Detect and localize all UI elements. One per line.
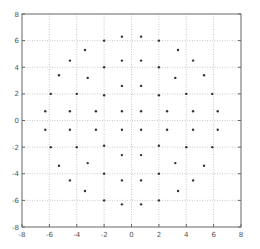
data-point xyxy=(50,146,52,148)
data-point xyxy=(158,145,160,147)
data-point xyxy=(174,77,176,79)
data-point xyxy=(69,59,71,61)
data-point xyxy=(174,162,176,164)
grid-lines xyxy=(22,14,241,227)
x-tick-label: 4 xyxy=(184,231,189,239)
data-point xyxy=(69,129,71,131)
data-point xyxy=(69,110,71,112)
data-point xyxy=(140,110,142,112)
x-tick-label: 8 xyxy=(239,231,243,239)
data-point xyxy=(185,93,187,95)
data-point xyxy=(140,35,142,37)
data-point xyxy=(140,85,142,87)
x-tick-label: 0 xyxy=(129,231,133,239)
data-point xyxy=(177,190,179,192)
x-tick-label: -4 xyxy=(73,231,81,239)
data-point xyxy=(121,179,123,181)
data-point xyxy=(95,110,97,112)
y-tick-label: -6 xyxy=(12,197,20,205)
data-point xyxy=(158,39,160,41)
data-point xyxy=(217,129,219,131)
data-point xyxy=(177,49,179,51)
data-point xyxy=(103,173,105,175)
x-axis-ticks: -8-6-4-202468 xyxy=(19,224,244,239)
data-point xyxy=(158,173,160,175)
x-tick-label: -8 xyxy=(19,231,26,239)
data-point xyxy=(76,146,78,148)
data-point xyxy=(121,85,123,87)
data-point xyxy=(140,179,142,181)
y-tick-label: 4 xyxy=(15,64,20,72)
data-point xyxy=(192,110,194,112)
data-point xyxy=(58,165,60,167)
y-tick-label: 2 xyxy=(15,90,19,98)
data-point xyxy=(76,93,78,95)
data-point xyxy=(166,129,168,131)
data-point xyxy=(140,203,142,205)
data-point xyxy=(121,110,123,112)
y-tick-label: 0 xyxy=(15,117,19,125)
x-tick-label: 6 xyxy=(211,231,216,239)
data-point xyxy=(158,199,160,201)
data-point xyxy=(121,59,123,61)
data-point xyxy=(166,110,168,112)
data-point xyxy=(158,94,160,96)
data-point xyxy=(211,146,213,148)
data-point xyxy=(44,129,46,131)
y-tick-label: -8 xyxy=(12,224,19,232)
data-point xyxy=(95,129,97,131)
data-point xyxy=(192,129,194,131)
scatter-chart: -8-6-4-202468 -8-6-4-202468 xyxy=(0,0,260,249)
data-point xyxy=(103,66,105,68)
x-tick-label: -2 xyxy=(101,231,108,239)
y-axis-ticks: -8-6-4-202468 xyxy=(12,11,241,232)
data-point xyxy=(185,146,187,148)
y-tick-label: -4 xyxy=(12,170,20,178)
y-tick-label: 8 xyxy=(15,11,19,19)
data-point xyxy=(211,93,213,95)
data-point xyxy=(192,59,194,61)
data-point xyxy=(140,154,142,156)
data-point xyxy=(103,94,105,96)
data-point xyxy=(121,203,123,205)
data-point xyxy=(192,179,194,181)
x-tick-label: -6 xyxy=(46,231,54,239)
data-point xyxy=(103,145,105,147)
data-point xyxy=(217,110,219,112)
data-point xyxy=(203,74,205,76)
data-point xyxy=(140,129,142,131)
data-point xyxy=(69,179,71,181)
data-point xyxy=(121,35,123,37)
data-point xyxy=(121,129,123,131)
data-point xyxy=(140,59,142,61)
data-point xyxy=(87,77,89,79)
data-point xyxy=(58,74,60,76)
data-point xyxy=(84,190,86,192)
data-point xyxy=(44,110,46,112)
data-point xyxy=(103,199,105,201)
data-point xyxy=(87,162,89,164)
data-point xyxy=(203,165,205,167)
data-point xyxy=(50,93,52,95)
y-tick-label: 6 xyxy=(15,37,20,45)
y-tick-label: -2 xyxy=(12,144,19,152)
x-tick-label: 2 xyxy=(157,231,161,239)
data-point xyxy=(158,66,160,68)
data-point xyxy=(84,49,86,51)
data-point xyxy=(121,154,123,156)
data-point xyxy=(103,39,105,41)
